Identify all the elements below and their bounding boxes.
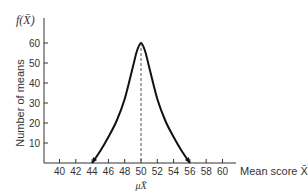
chart: 102030405060 4042444648505254565860 f(X̄… [0,0,308,196]
y-tick-label: 40 [29,78,41,89]
y-function-label: f(X̄) [16,13,35,27]
y-axis-label: Number of means [14,59,26,147]
x-axis-label: Mean score X̄ [240,165,308,177]
x-tick-label: 42 [70,166,82,177]
x-tick-label: 60 [217,166,229,177]
axes [44,18,236,163]
x-tick-label: 44 [87,166,99,177]
x-ticks: 4042444648505254565860 [54,159,229,177]
x-tick-label: 56 [184,166,196,177]
y-tick-label: 30 [29,98,41,109]
y-tick-label: 60 [29,38,41,49]
x-tick-label: 50 [135,166,147,177]
mean-label: μX̄ [134,180,147,191]
y-tick-label: 50 [29,58,41,69]
x-tick-label: 46 [103,166,115,177]
x-tick-label: 40 [54,166,66,177]
x-tick-label: 52 [152,166,164,177]
x-tick-label: 58 [201,166,213,177]
x-tick-label: 54 [168,166,180,177]
x-tick-label: 48 [119,166,131,177]
y-ticks: 102030405060 [29,38,48,149]
y-tick-label: 20 [29,118,41,129]
y-tick-label: 10 [29,138,41,149]
